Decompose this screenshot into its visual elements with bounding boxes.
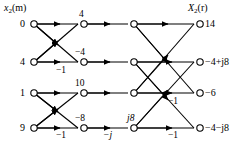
input-value-0: 0: [20, 19, 25, 29]
input-arg: (m): [12, 2, 26, 13]
fft-signal-flow-diagram: x2(m) X2(r) 0 4 1 9 14 −4+j8 −6 −4−j8 4 …: [0, 0, 251, 151]
input-value-3: 9: [20, 123, 25, 133]
edges-stage-2: [84, 24, 128, 128]
node-value-stage1-row0: 4: [79, 10, 84, 20]
coefficient-stage3-row3: −1: [168, 131, 178, 141]
output-value-2: −6: [205, 88, 216, 98]
node-value-stage1-row2: 10: [75, 79, 85, 89]
edges-stage-3: [134, 24, 194, 128]
input-sequence-label: x2(m): [4, 3, 26, 15]
coefficient-stage1-row3: −1: [56, 131, 66, 141]
edges-stage-1: [34, 24, 78, 128]
output-value-0: 14: [205, 19, 215, 29]
output-arg: (r): [198, 2, 208, 13]
node-value-stage2-row3: j8: [127, 114, 134, 124]
node-value-stage1-row1: −4: [75, 48, 85, 58]
coefficient-stage2-row3: −j: [103, 131, 112, 141]
coefficient-stage1-row1: −1: [56, 66, 66, 76]
nodes: [31, 21, 203, 131]
output-value-1: −4+j8: [205, 57, 229, 67]
input-value-2: 1: [20, 88, 25, 98]
output-value-3: −4−j8: [205, 123, 229, 133]
node-value-stage1-row3: −8: [75, 114, 85, 124]
input-value-1: 4: [20, 57, 25, 67]
coefficient-stage3-row2: −1: [168, 97, 178, 107]
output-sequence-label: X2(r): [188, 3, 208, 15]
